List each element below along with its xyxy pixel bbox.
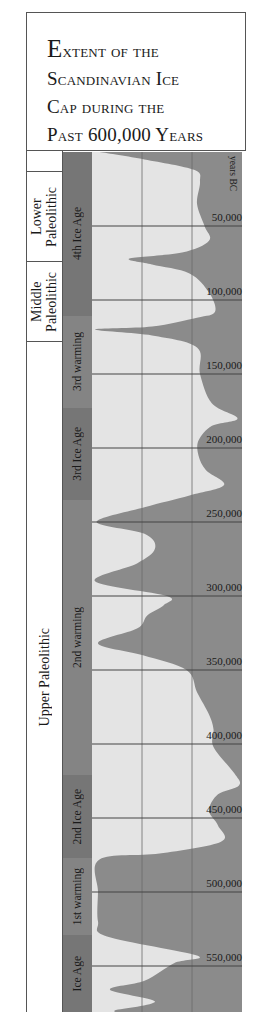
year-tick-label: 50,000 — [162, 211, 242, 223]
period-band: 3rd Ice Age — [63, 408, 92, 500]
year-tick-label: 350,000 — [162, 655, 242, 667]
epoch-label: Upper Paleolithic — [37, 628, 52, 726]
period-band: 1st warming — [63, 858, 92, 935]
title-line-3: Cap during the — [47, 93, 243, 121]
year-tick-label: 450,000 — [162, 803, 242, 815]
epoch-cell: Upper Paleolithic — [26, 342, 62, 1012]
year-tick-label: 500,000 — [162, 877, 242, 889]
title-line-2: Scandinavian Ice — [47, 65, 243, 93]
title-line-4: Past 600,000 Years — [47, 121, 243, 149]
period-label: 2nd warming — [70, 607, 85, 668]
period-label: 1st warming — [70, 868, 85, 925]
epoch-label: MiddlePaleolithic — [29, 272, 59, 332]
year-tick-label: 150,000 — [162, 359, 242, 371]
period-band-column: 4th Ice Age3rd warming3rd Ice Age2nd war… — [63, 152, 92, 1012]
chart-title: Extent of the Scandinavian Ice Cap durin… — [47, 35, 243, 149]
period-band: Ice Age — [63, 935, 92, 1012]
epoch-column: LowerPaleolithicMiddlePaleolithicUpper P… — [26, 151, 63, 1012]
year-tick-label: 550,000 — [162, 951, 242, 963]
title-initial: E — [47, 35, 62, 62]
epoch-cell — [26, 151, 62, 172]
year-tick-label: 100,000 — [162, 285, 242, 297]
title-line-1: Extent of the — [47, 35, 243, 65]
period-label: 2nd Ice Age — [70, 789, 85, 845]
period-label: 3rd Ice Age — [70, 427, 85, 481]
year-tick-label: 400,000 — [162, 729, 242, 741]
year-tick-label: 250,000 — [162, 507, 242, 519]
period-band: 4th Ice Age — [63, 152, 92, 316]
year-tick-label: 300,000 — [162, 581, 242, 593]
period-label: 3rd warming — [70, 332, 85, 391]
period-label: Ice Age — [70, 956, 85, 991]
period-band: 2nd warming — [63, 500, 92, 775]
epoch-cell: LowerPaleolithic — [26, 172, 62, 262]
year-tick-label: 200,000 — [162, 433, 242, 445]
epoch-label: LowerPaleolithic — [29, 187, 59, 247]
units-label: years BC — [228, 156, 238, 191]
period-label: 4th Ice Age — [70, 207, 85, 260]
period-band: 2nd Ice Age — [63, 775, 92, 858]
period-band: 3rd warming — [63, 316, 92, 408]
epoch-cell: MiddlePaleolithic — [26, 262, 62, 342]
title-box: Extent of the Scandinavian Ice Cap durin… — [26, 12, 246, 150]
